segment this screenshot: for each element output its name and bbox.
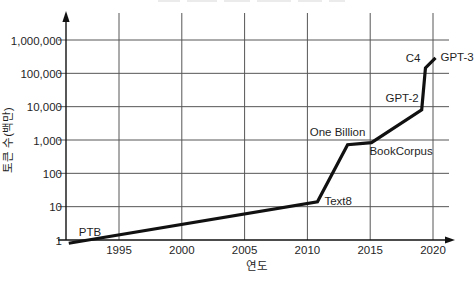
title-remnant-dash <box>224 0 250 2</box>
y-tick-label: 100,000 <box>20 68 62 80</box>
title-remnant-dash <box>257 0 291 2</box>
x-axis-arrow-icon <box>445 236 455 243</box>
x-tick-label: 2005 <box>232 244 258 256</box>
x-axis-title: 연도 <box>246 260 268 272</box>
point-label-one-billion: One Billion <box>310 126 366 138</box>
x-tick-label: 2000 <box>169 244 195 256</box>
x-tick-label: 2020 <box>420 244 446 256</box>
point-label-c4: C4 <box>406 52 421 64</box>
title-remnant-dash <box>298 0 322 2</box>
title-remnant-dash <box>158 0 180 2</box>
y-tick-label: 1,000 <box>33 135 62 147</box>
y-tick-label: 1,000,000 <box>11 35 62 47</box>
point-label-text8: Text8 <box>324 195 352 207</box>
token-count-line-chart: 1,000,000100,00010,0001,000100101 199520… <box>0 0 476 282</box>
point-label-gpt-3: GPT-3 <box>441 51 474 63</box>
point-label-gpt-2: GPT-2 <box>385 92 418 104</box>
vertical-gridlines <box>119 13 433 240</box>
y-tick-label: 10,000 <box>27 101 62 113</box>
x-tick-label: 2015 <box>357 244 383 256</box>
y-tick-label: 100 <box>43 168 62 180</box>
title-remnant-dash <box>329 0 345 2</box>
line-chart-svg: 1,000,000100,00010,0001,000100101 199520… <box>0 0 476 282</box>
y-axis-tick-labels: 1,000,000100,00010,0001,000100101 <box>11 35 62 247</box>
y-tick-label: 10 <box>49 201 62 213</box>
horizontal-gridlines <box>58 40 449 207</box>
y-tick-label: 1 <box>56 235 62 247</box>
y-axis-title: 토큰 수(백만) <box>2 107 14 173</box>
x-tick-label: 2010 <box>295 244 321 256</box>
y-axis-arrow-icon <box>62 11 69 22</box>
cropped-title-remnant <box>158 0 358 3</box>
x-axis-tick-labels: 199520002005201020152020 <box>106 244 446 256</box>
point-label-bookcorpus: BookCorpus <box>369 145 433 157</box>
title-remnant-dash <box>187 0 217 2</box>
point-label-ptb: PTB <box>79 226 102 238</box>
x-tick-label: 1995 <box>106 244 132 256</box>
